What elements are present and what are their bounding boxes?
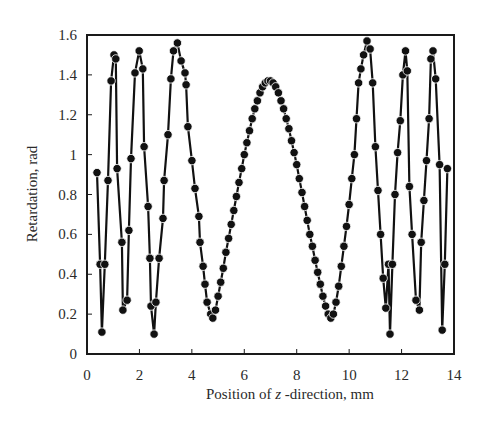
data-point-marker	[214, 292, 222, 300]
data-point-marker	[425, 115, 433, 123]
data-point-marker	[357, 65, 365, 73]
data-point-marker	[101, 260, 109, 268]
data-point-marker	[104, 176, 112, 184]
data-point-marker	[282, 115, 290, 123]
y-tick-label: 0.4	[58, 266, 77, 282]
data-point-marker	[107, 77, 115, 85]
data-point-marker	[219, 264, 227, 272]
data-point-marker	[224, 234, 232, 242]
data-point-marker	[401, 47, 409, 55]
plot-area	[87, 35, 454, 354]
data-point-marker	[201, 280, 209, 288]
x-tick-label: 4	[188, 367, 196, 383]
retardation-chart: 02468101214 00.20.40.60.811.21.41.6 Posi…	[0, 0, 490, 426]
data-point-marker	[369, 79, 377, 87]
data-point-marker	[173, 39, 181, 47]
data-point-marker	[359, 51, 367, 59]
data-point-marker	[415, 306, 423, 314]
data-point-marker	[152, 298, 160, 306]
x-axis-title: Position of z -direction, mm	[206, 386, 374, 402]
data-point-marker	[125, 226, 133, 234]
data-point-marker	[199, 262, 207, 270]
data-point-marker	[144, 202, 152, 210]
y-tick-label: 0	[70, 346, 78, 362]
data-point-marker	[308, 242, 316, 250]
data-point-marker	[295, 174, 303, 182]
data-point-marker	[243, 139, 251, 147]
data-point-marker	[386, 330, 394, 338]
data-point-marker	[112, 55, 120, 63]
y-axis-title: Retardation, rad	[24, 145, 40, 242]
data-point-marker	[350, 150, 358, 158]
data-point-marker	[363, 37, 371, 45]
data-point-marker	[253, 97, 261, 105]
data-point-marker	[412, 296, 420, 304]
data-point-marker	[293, 160, 301, 168]
data-point-marker	[300, 202, 308, 210]
data-point-marker	[209, 314, 217, 322]
data-point-marker	[181, 69, 189, 77]
data-point-marker	[135, 47, 143, 55]
x-tick-label: 10	[342, 367, 357, 383]
data-point-marker	[238, 164, 246, 172]
data-point-marker	[232, 192, 240, 200]
x-tick-label: 2	[136, 367, 144, 383]
data-point-marker	[335, 282, 343, 290]
data-point-marker	[311, 256, 319, 264]
x-tick-label: 14	[447, 367, 463, 383]
data-point-marker	[376, 230, 384, 238]
data-point-marker	[184, 123, 192, 131]
x-tick-label: 6	[241, 367, 249, 383]
data-point-marker	[164, 131, 172, 139]
data-point-marker	[342, 222, 350, 230]
data-point-marker	[393, 148, 401, 156]
data-point-marker	[235, 178, 243, 186]
data-point-marker	[285, 125, 293, 133]
data-point-marker	[93, 168, 101, 176]
data-point-marker	[332, 298, 340, 306]
data-point-marker	[230, 206, 238, 214]
y-tick-label: 1.6	[58, 27, 77, 43]
data-point-marker	[405, 182, 413, 190]
y-tick-label: 0.8	[58, 187, 77, 203]
data-point-marker	[329, 310, 337, 318]
data-point-marker	[321, 302, 329, 310]
data-point-marker	[396, 117, 404, 125]
data-point-marker	[150, 330, 158, 338]
data-point-marker	[227, 220, 235, 228]
data-point-marker	[98, 328, 106, 336]
x-tick-label: 0	[83, 367, 91, 383]
data-point-marker	[319, 292, 327, 300]
data-point-marker	[191, 184, 199, 192]
data-point-marker	[352, 115, 360, 123]
data-point-marker	[382, 304, 390, 312]
data-point-marker	[435, 160, 443, 168]
data-point-marker	[371, 143, 379, 151]
data-point-marker	[118, 238, 126, 246]
y-tick-label: 0.6	[58, 226, 77, 242]
data-point-marker	[188, 156, 196, 164]
data-point-marker	[177, 57, 185, 65]
data-point-marker	[379, 274, 387, 282]
data-point-marker	[340, 242, 348, 250]
data-point-marker	[314, 268, 322, 276]
data-point-marker	[119, 306, 127, 314]
y-tick-label: 1	[70, 147, 78, 163]
data-point-marker	[408, 230, 416, 238]
data-point-marker	[222, 248, 230, 256]
data-point-marker	[427, 55, 435, 63]
y-tick-label: 1.2	[58, 107, 77, 123]
data-point-marker	[131, 69, 139, 77]
data-point-marker	[217, 278, 225, 286]
data-point-marker	[422, 156, 430, 164]
y-tick-label: 1.4	[58, 67, 77, 83]
data-point-marker	[287, 137, 295, 145]
data-point-marker	[348, 174, 356, 182]
data-point-marker	[290, 148, 298, 156]
data-point-marker	[251, 105, 259, 113]
data-point-marker	[391, 190, 399, 198]
data-point-marker	[155, 254, 163, 262]
data-point-marker	[167, 75, 175, 83]
data-point-marker	[139, 65, 147, 73]
data-point-marker	[417, 238, 425, 246]
